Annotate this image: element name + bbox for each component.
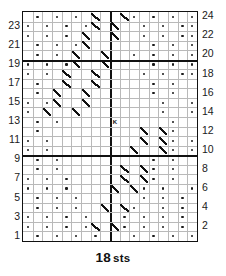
purl-dot-symbol	[149, 231, 159, 241]
twist-slash-symbol	[91, 69, 101, 79]
purl-dot-symbol	[187, 69, 197, 79]
twist-slash-symbol	[100, 50, 110, 60]
twist-slash-symbol	[110, 222, 120, 232]
purl-dot-symbol	[91, 231, 101, 241]
purl-dot-symbol	[158, 203, 168, 213]
purl-dot-symbol	[168, 41, 178, 51]
purl-dot-symbol	[52, 165, 62, 175]
twist-slash-symbol	[120, 12, 130, 22]
twist-slash-symbol	[129, 184, 139, 194]
twist-slash-symbol	[129, 146, 139, 156]
row-number-right: 20	[202, 48, 214, 59]
purl-dot-symbol	[62, 22, 72, 32]
purl-dot-symbol	[33, 41, 43, 51]
grid-line-horizontal	[23, 193, 197, 194]
purl-dot-symbol	[23, 174, 33, 184]
purl-dot-symbol	[149, 79, 159, 89]
purl-dot-symbol	[71, 231, 81, 241]
purl-dot-symbol	[187, 146, 197, 156]
purl-dot-symbol	[52, 12, 62, 22]
row-number-left: 13	[8, 115, 20, 126]
row-number-left: 19	[8, 58, 20, 69]
twist-slash-symbol	[100, 203, 110, 213]
row-number-right: 12	[202, 125, 214, 136]
row-number-left: 21	[8, 39, 20, 50]
purl-dot-symbol	[71, 193, 81, 203]
purl-dot-symbol	[129, 203, 139, 213]
purl-dot-symbol	[23, 184, 33, 194]
purl-dot-symbol	[149, 165, 159, 175]
row-number-left: 7	[14, 172, 20, 183]
purl-dot-symbol	[149, 50, 159, 60]
purl-dot-symbol	[178, 69, 188, 79]
twist-slash-symbol	[110, 22, 120, 32]
purl-dot-symbol	[187, 50, 197, 60]
twist-slash-symbol	[71, 60, 81, 70]
purl-dot-symbol	[52, 155, 62, 165]
purl-dot-symbol	[129, 12, 139, 22]
twist-slash-symbol	[139, 165, 149, 175]
purl-dot-symbol	[33, 193, 43, 203]
purl-dot-symbol	[139, 22, 149, 32]
purl-dot-symbol	[42, 222, 52, 232]
twist-slash-symbol	[110, 184, 120, 194]
purl-dot-symbol	[158, 193, 168, 203]
twist-slash-symbol	[139, 127, 149, 137]
row-number-left: 9	[14, 153, 20, 164]
purl-dot-symbol	[149, 12, 159, 22]
purl-dot-symbol	[81, 222, 91, 232]
purl-dot-symbol	[33, 165, 43, 175]
purl-dot-symbol	[168, 136, 178, 146]
purl-dot-symbol	[187, 231, 197, 241]
purl-dot-symbol	[187, 22, 197, 32]
purl-dot-symbol	[23, 107, 33, 117]
row-number-right: 16	[202, 87, 214, 98]
purl-dot-symbol	[23, 69, 33, 79]
twist-slash-symbol	[81, 88, 91, 98]
purl-dot-symbol	[168, 117, 178, 127]
purl-dot-symbol	[23, 98, 33, 108]
purl-dot-symbol	[139, 69, 149, 79]
chart-grid[interactable]: K	[22, 11, 198, 242]
twist-slash-symbol	[100, 60, 110, 70]
row-number-right: 10	[202, 144, 214, 155]
purl-dot-symbol	[33, 155, 43, 165]
purl-dot-symbol	[62, 222, 72, 232]
twist-slash-symbol	[91, 79, 101, 89]
purl-dot-symbol	[33, 203, 43, 213]
purl-dot-symbol	[168, 60, 178, 70]
purl-dot-symbol	[23, 22, 33, 32]
purl-dot-symbol	[187, 107, 197, 117]
purl-dot-symbol	[52, 41, 62, 51]
twist-slash-symbol	[62, 79, 72, 89]
purl-dot-symbol	[168, 155, 178, 165]
purl-dot-symbol	[139, 222, 149, 232]
row-number-right: 18	[202, 68, 214, 79]
twist-slash-symbol	[91, 22, 101, 32]
purl-dot-symbol	[168, 12, 178, 22]
twist-slash-symbol	[52, 88, 62, 98]
purl-dot-symbol	[187, 136, 197, 146]
purl-dot-symbol	[120, 212, 130, 222]
purl-dot-symbol	[149, 41, 159, 51]
twist-slash-symbol	[139, 174, 149, 184]
purl-dot-symbol	[178, 193, 188, 203]
purl-dot-symbol	[158, 184, 168, 194]
purl-dot-symbol	[62, 60, 72, 70]
purl-dot-symbol	[139, 193, 149, 203]
purl-dot-symbol	[139, 31, 149, 41]
purl-dot-symbol	[149, 174, 159, 184]
purl-dot-symbol	[81, 212, 91, 222]
purl-dot-symbol	[187, 12, 197, 22]
twist-slash-symbol	[81, 41, 91, 51]
purl-dot-symbol	[187, 184, 197, 194]
purl-dot-symbol	[23, 212, 33, 222]
twist-slash-symbol	[110, 31, 120, 41]
purl-dot-symbol	[62, 31, 72, 41]
purl-dot-symbol	[129, 50, 139, 60]
purl-dot-symbol	[168, 231, 178, 241]
purl-dot-symbol	[178, 212, 188, 222]
purl-dot-symbol	[71, 203, 81, 213]
twist-slash-symbol	[81, 31, 91, 41]
purl-dot-symbol	[149, 155, 159, 165]
